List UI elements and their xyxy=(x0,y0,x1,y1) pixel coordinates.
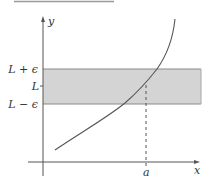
y-axis-arrow-icon xyxy=(41,16,45,22)
lower-band-label: L − ϵ xyxy=(7,98,38,111)
epsilon-band xyxy=(43,69,201,104)
epsilon-limit-diagram: y x a L + ϵ L L − ϵ xyxy=(0,0,212,188)
upper-band-label: L + ϵ xyxy=(7,63,38,76)
a-label: a xyxy=(143,166,150,179)
l-label: L xyxy=(31,80,39,93)
x-axis-label: x xyxy=(194,164,201,177)
y-axis-label: y xyxy=(47,15,55,28)
